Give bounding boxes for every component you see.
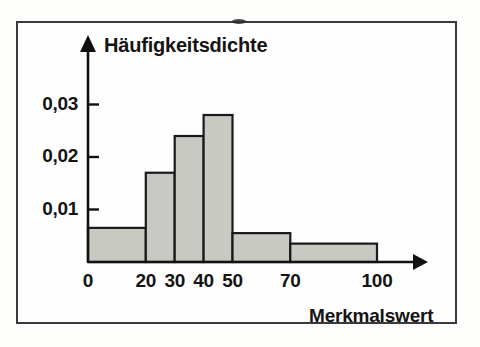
histogram-bar [146, 173, 175, 262]
histogram-figure: Häufigkeitsdichte Merkmalswert 0,010,020… [0, 0, 480, 347]
bars-group [88, 115, 377, 262]
x-tick-label: 100 [355, 270, 399, 292]
y-axis-title: Häufigkeitsdichte [104, 34, 267, 57]
histogram-bar [290, 244, 377, 262]
x-tick-label: 70 [268, 270, 312, 292]
histogram-bar [204, 115, 233, 262]
x-axis-title: Merkmalswert [309, 305, 433, 327]
histogram-bar [88, 228, 146, 262]
y-tick-label: 0,03 [22, 93, 78, 115]
y-tick-label: 0,01 [22, 198, 78, 220]
x-axis-arrow [413, 254, 428, 270]
x-tick-label: 0 [66, 270, 110, 292]
y-axis-arrow [80, 35, 96, 52]
histogram-bar [175, 136, 204, 262]
histogram-bar [233, 233, 291, 262]
x-tick-label: 50 [211, 270, 255, 292]
y-tick-label: 0,02 [22, 145, 78, 167]
